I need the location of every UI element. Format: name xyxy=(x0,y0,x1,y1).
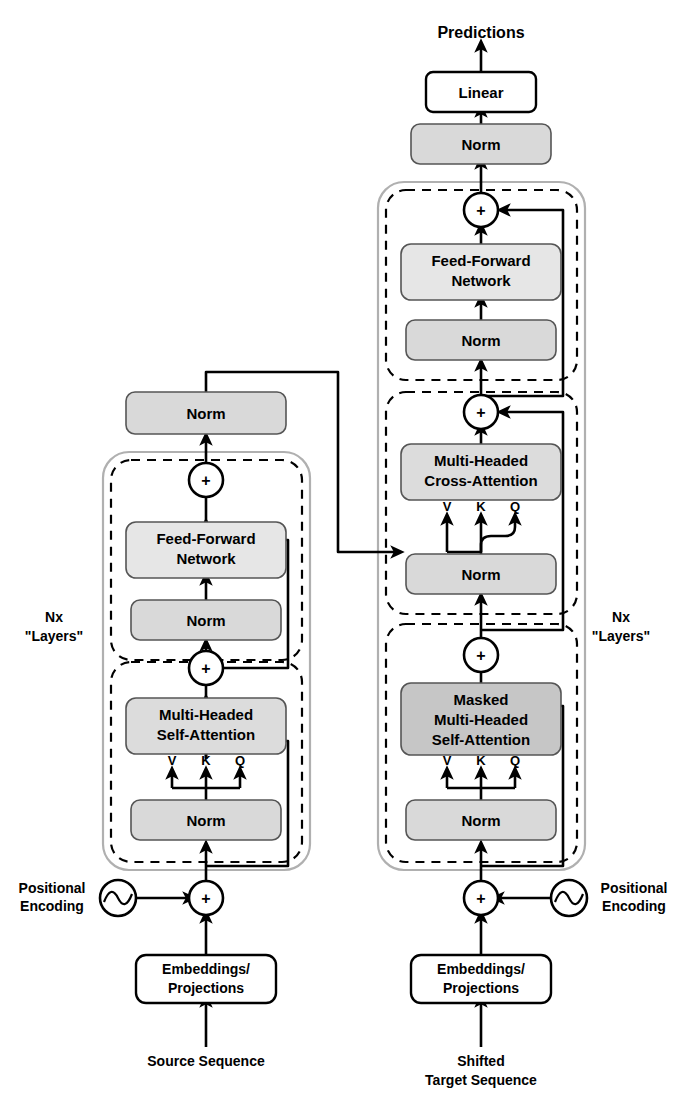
decoder-cross-v-label: V xyxy=(443,499,452,514)
decoder-cross-q-label: Q xyxy=(510,499,520,514)
encoder-selfattention-box[interactable]: Multi-Headed Self-Attention xyxy=(126,698,286,754)
encoder-stack-label-line1: Nx xyxy=(45,609,63,625)
decoder-maskedattn-norm-label: Norm xyxy=(461,812,500,829)
linear-label: Linear xyxy=(458,84,503,101)
encoder-positional-encoding: Positional Encoding xyxy=(19,880,136,916)
decoder-embeddings-label-line1: Embeddings/ xyxy=(437,961,525,977)
decoder-maskedattn-label-line3: Self-Attention xyxy=(432,731,530,748)
decoder-crossattn-label-line2: Cross-Attention xyxy=(424,472,537,489)
encoder-embeddings-label-line2: Projections xyxy=(168,980,244,996)
decoder-crossattn-norm-label: Norm xyxy=(461,566,500,583)
decoder-maskedattn-label-line1: Masked xyxy=(453,691,508,708)
encoder-selfattn-norm-label: Norm xyxy=(186,812,225,829)
encoder-posenc-label-line1: Positional xyxy=(19,880,86,896)
decoder-crossattn-label-line1: Multi-Headed xyxy=(434,452,528,469)
encoder-posenc-label-line2: Encoding xyxy=(20,898,84,914)
decoder-maskedattn-add-symbol: + xyxy=(476,647,485,664)
decoder-crossattn-norm-box[interactable]: Norm xyxy=(406,554,556,594)
encoder-embeddings-label-line1: Embeddings/ xyxy=(162,961,250,977)
final-norm-label: Norm xyxy=(461,136,500,153)
encoder-ffn-add: + xyxy=(189,463,223,497)
transformer-architecture-diagram: Embeddings/ Projections Source Sequence … xyxy=(0,0,675,1120)
decoder-crossattn-add-symbol: + xyxy=(476,404,485,421)
encoder-selfattn-label-line1: Multi-Headed xyxy=(159,706,253,723)
encoder-ffn-add-symbol: + xyxy=(201,472,210,489)
decoder-ffn-box[interactable]: Feed-Forward Network xyxy=(401,244,561,300)
decoder-embeddings-box[interactable]: Embeddings/ Projections xyxy=(411,955,551,1003)
decoder-ffn-add-symbol: + xyxy=(476,202,485,219)
encoder-sequence-label: Source Sequence xyxy=(147,1053,265,1069)
decoder-input-add: + xyxy=(464,881,498,915)
decoder-embeddings-label-line2: Projections xyxy=(443,980,519,996)
encoder-output-norm-label: Norm xyxy=(186,405,225,422)
decoder-crossattention-box[interactable]: Multi-Headed Cross-Attention xyxy=(401,444,561,500)
final-norm-box[interactable]: Norm xyxy=(411,124,551,164)
encoder-v-label: V xyxy=(168,753,177,768)
decoder-cross-k-label: K xyxy=(476,499,486,514)
decoder-ffn-norm-box[interactable]: Norm xyxy=(406,320,556,360)
decoder-posenc-label-line2: Encoding xyxy=(602,898,666,914)
decoder-stack-label-line2: "Layers" xyxy=(592,628,650,644)
encoder-ffn-norm-box[interactable]: Norm xyxy=(131,600,281,640)
decoder-stack-label-line1: Nx xyxy=(612,609,630,625)
encoder-ffn-norm-label: Norm xyxy=(186,612,225,629)
encoder-embeddings-box[interactable]: Embeddings/ Projections xyxy=(136,955,276,1003)
decoder-ffn-label-line1: Feed-Forward xyxy=(431,252,530,269)
decoder-input-add-symbol: + xyxy=(476,890,485,907)
decoder-posenc-label-line1: Positional xyxy=(601,880,668,896)
decoder-masked-selfattention-box[interactable]: Masked Multi-Headed Self-Attention xyxy=(401,683,561,755)
decoder-sequence-label-line1: Shifted xyxy=(457,1053,504,1069)
architecture-svg: Embeddings/ Projections Source Sequence … xyxy=(0,0,675,1120)
decoder-ffn-label-line2: Network xyxy=(451,272,511,289)
linear-box[interactable]: Linear xyxy=(426,72,536,112)
decoder-sequence-label-line2: Target Sequence xyxy=(425,1072,537,1088)
encoder-input-add-symbol: + xyxy=(201,890,210,907)
decoder-maskedattn-add: + xyxy=(464,638,498,672)
encoder-input-add: + xyxy=(189,881,223,915)
decoder-maskedattn-norm-box[interactable]: Norm xyxy=(406,800,556,840)
predictions-label: Predictions xyxy=(437,24,524,41)
encoder-ffn-label-line2: Network xyxy=(176,550,236,567)
decoder-ffn-add: + xyxy=(464,193,498,227)
encoder-selfattn-add: + xyxy=(189,651,223,685)
decoder-crossattn-add: + xyxy=(464,395,498,429)
encoder-output-norm-box[interactable]: Norm xyxy=(126,392,286,434)
encoder-selfattn-label-line2: Self-Attention xyxy=(157,726,255,743)
decoder-ffn-norm-label: Norm xyxy=(461,332,500,349)
encoder-ffn-label-line1: Feed-Forward xyxy=(156,530,255,547)
decoder-maskedattn-label-line2: Multi-Headed xyxy=(434,711,528,728)
encoder-k-label: K xyxy=(201,753,211,768)
encoder-stack-label-line2: "Layers" xyxy=(25,628,83,644)
encoder-selfattn-norm-box[interactable]: Norm xyxy=(131,800,281,840)
wire-decoder-ffn-residual xyxy=(481,210,563,396)
decoder-positional-encoding: Positional Encoding xyxy=(551,880,667,916)
wire-decoder-norm2-to-q xyxy=(481,518,515,554)
encoder-selfattn-add-symbol: + xyxy=(201,660,210,677)
encoder-q-label: Q xyxy=(235,753,245,768)
encoder-ffn-box[interactable]: Feed-Forward Network xyxy=(126,522,286,578)
